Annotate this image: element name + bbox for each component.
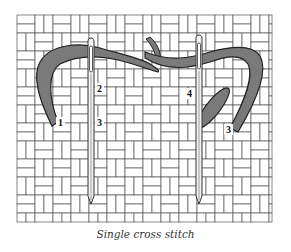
needle-left	[88, 38, 94, 204]
label-step-2: 2	[97, 83, 102, 94]
cross-stitch-illustration: 12343	[0, 0, 291, 252]
label-step-3-left: 3	[97, 117, 102, 128]
label-step-4: 4	[187, 88, 192, 99]
needle-right	[196, 35, 202, 204]
label-step-1: 1	[58, 117, 63, 128]
figure-caption: Single cross stitch	[0, 228, 291, 240]
label-step-3-right: 3	[226, 124, 231, 135]
